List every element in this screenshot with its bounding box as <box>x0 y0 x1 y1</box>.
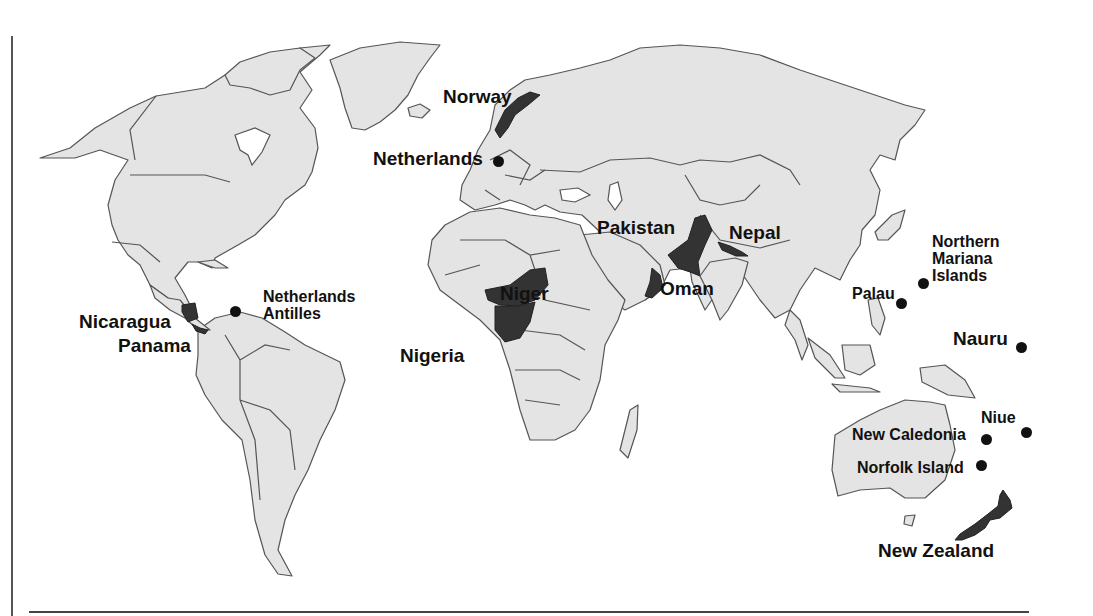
marker-dot-northern-mariana <box>918 278 929 289</box>
marker-dot-norfolk-island <box>976 460 987 471</box>
new-guinea <box>920 365 975 398</box>
label-norfolk-island: Norfolk Island <box>857 460 964 477</box>
philippines <box>868 298 885 335</box>
label-netherlands-antilles-line1: Netherlands <box>263 289 355 306</box>
label-niue: Niue <box>981 410 1016 427</box>
label-netherlands-antilles: Netherlands Antilles <box>263 289 355 323</box>
label-nicaragua: Nicaragua <box>79 312 171 332</box>
marker-dot-nauru <box>1016 342 1027 353</box>
label-netherlands-antilles-line2: Antilles <box>263 306 355 323</box>
new-zealand-shape <box>955 490 1012 540</box>
label-netherlands: Netherlands <box>373 149 483 169</box>
marker-dot-niue <box>1021 427 1032 438</box>
label-northern-mariana-islands: Northern Mariana Islands <box>932 234 1000 284</box>
south-america <box>196 312 345 576</box>
label-niger: Niger <box>500 284 549 304</box>
label-pakistan: Pakistan <box>597 218 675 238</box>
label-panama: Panama <box>118 336 191 356</box>
borneo <box>842 345 875 375</box>
label-northern-mariana-line1: Northern <box>932 234 1000 251</box>
japan <box>875 210 905 240</box>
cuba <box>198 260 228 268</box>
marker-dot-new-caledonia <box>981 434 992 445</box>
nicaragua-shape <box>182 303 198 322</box>
label-nigeria: Nigeria <box>400 346 464 366</box>
marker-dot-netherlands-antilles <box>230 306 241 317</box>
madagascar <box>620 405 638 458</box>
southeast-asia <box>785 310 808 360</box>
label-northern-mariana-line2: Mariana <box>932 251 1000 268</box>
label-oman: Oman <box>660 279 714 299</box>
label-northern-mariana-line3: Islands <box>932 268 1000 285</box>
australia <box>832 400 955 498</box>
label-new-caledonia: New Caledonia <box>852 427 966 444</box>
sumatra <box>808 338 845 378</box>
marker-dot-palau <box>896 298 907 309</box>
label-new-zealand: New Zealand <box>878 541 994 561</box>
marker-dot-netherlands <box>493 156 504 167</box>
label-nepal: Nepal <box>729 223 781 243</box>
tasmania <box>904 515 915 526</box>
label-palau: Palau <box>852 286 895 303</box>
world-map <box>0 0 1093 616</box>
label-nauru: Nauru <box>953 329 1008 349</box>
java <box>832 384 880 392</box>
iceland <box>408 104 430 118</box>
label-norway: Norway <box>443 87 512 107</box>
